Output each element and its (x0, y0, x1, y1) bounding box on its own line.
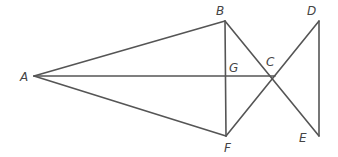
point-label-a: A (19, 70, 28, 84)
point-label-b: B (216, 4, 224, 18)
geometry-diagram: A B C D E F G (0, 0, 338, 157)
point-label-g: G (229, 61, 238, 75)
segment-ab (34, 21, 225, 76)
segment-af (34, 76, 226, 136)
point-label-e: E (299, 131, 307, 145)
point-label-d: D (307, 4, 316, 18)
point-label-c: C (266, 55, 275, 69)
point-label-f: F (224, 141, 232, 155)
segments-group (34, 21, 319, 136)
segment-bf (225, 21, 226, 136)
